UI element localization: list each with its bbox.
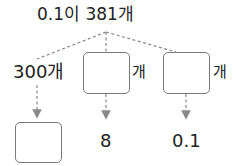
branch-3-result: 0.1 bbox=[172, 132, 201, 150]
branch-2-result: 8 bbox=[100, 132, 111, 150]
branch-2-unit: 개 bbox=[132, 65, 146, 80]
root-value: 0.1이 381개 bbox=[37, 6, 134, 23]
branch-3-answer-box[interactable] bbox=[163, 52, 210, 94]
branch-2-answer-box[interactable] bbox=[83, 52, 130, 94]
branch-1-answer-box[interactable] bbox=[15, 122, 62, 163]
branch-3-unit: 개 bbox=[213, 65, 227, 80]
branch-1-label: 300개 bbox=[13, 63, 64, 81]
